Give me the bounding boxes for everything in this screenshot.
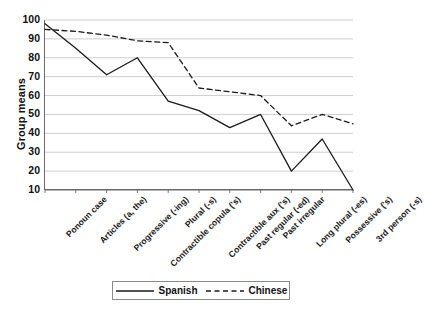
legend-swatch-solid-icon	[115, 286, 155, 296]
chart-legend: Spanish Chinese	[112, 281, 290, 300]
legend-label-spanish: Spanish	[159, 286, 198, 296]
legend-item-spanish: Spanish	[115, 286, 198, 296]
legend-label-chinese: Chinese	[249, 286, 288, 296]
legend-item-chinese: Chinese	[205, 286, 288, 296]
legend-swatch-dashed-icon	[205, 286, 245, 296]
